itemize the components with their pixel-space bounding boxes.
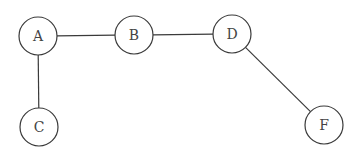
node-label: D: [226, 26, 237, 42]
graph-diagram: ABDCF: [0, 0, 363, 158]
edge-a-c: [38, 55, 39, 108]
node-label: A: [32, 28, 44, 44]
node-label: C: [34, 119, 45, 135]
edge-a-b: [57, 35, 115, 36]
node-label: B: [129, 27, 139, 43]
node-a: A: [19, 17, 57, 55]
edge-b-d: [153, 34, 213, 35]
node-c: C: [20, 108, 58, 146]
node-label: F: [319, 117, 329, 133]
node-b: B: [115, 16, 153, 54]
edges: [38, 34, 310, 111]
node-d: D: [213, 15, 251, 53]
edge-d-f: [246, 47, 311, 111]
node-f: F: [305, 106, 343, 144]
